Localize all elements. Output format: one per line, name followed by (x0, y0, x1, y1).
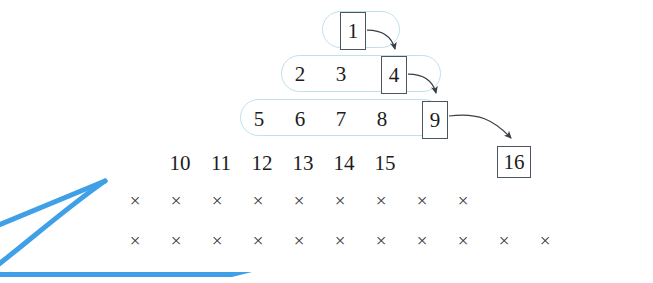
arrow-1-to-4-path (367, 30, 395, 49)
figure-canvas: 1 2 3 4 5 6 7 8 9 10 11 12 13 14 15 16 ×… (0, 0, 653, 283)
arrow-4-to-9-path (408, 74, 436, 93)
arrow-9-to-16-path (449, 115, 511, 138)
arrow-layer (0, 0, 653, 283)
